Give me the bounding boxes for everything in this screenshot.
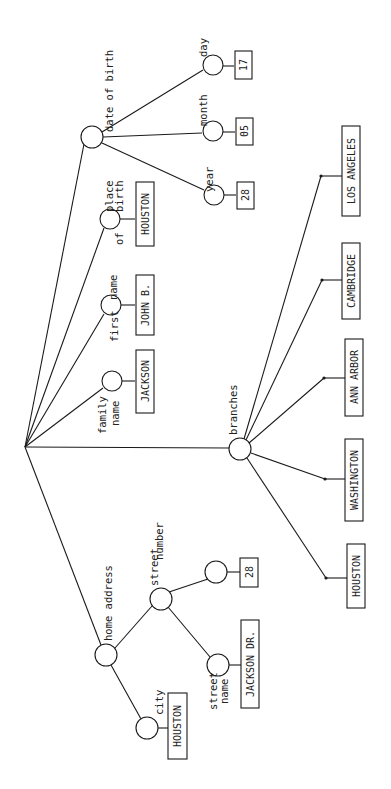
label-name: name bbox=[107, 275, 119, 300]
dot-cambridge bbox=[320, 278, 323, 281]
edge-root-branches bbox=[25, 447, 229, 448]
value-branch-cambridge: CAMBRIDGE bbox=[346, 254, 357, 308]
node-branches bbox=[229, 438, 251, 460]
value-year: 28 bbox=[240, 189, 251, 201]
edge-root-dob bbox=[25, 144, 84, 447]
value-labels: 17 05 28 HOUSTON JOHN B. JACKSON LOS ANG… bbox=[140, 59, 362, 747]
value-family-name: JACKSON bbox=[140, 360, 151, 402]
label-year: year bbox=[203, 167, 215, 192]
edge-home-street bbox=[115, 606, 152, 648]
label-branches: branches bbox=[227, 384, 239, 435]
label-street-name-2: name bbox=[218, 679, 230, 704]
label-first: first bbox=[108, 310, 120, 342]
node-family-name bbox=[102, 371, 122, 391]
label-number: number bbox=[153, 522, 165, 560]
value-first-name: JOHN B. bbox=[140, 284, 151, 326]
node-number bbox=[205, 561, 227, 583]
edge-branch-washington bbox=[251, 453, 325, 479]
label-of: of bbox=[113, 232, 125, 245]
node-home-address bbox=[95, 644, 117, 666]
value-month: 05 bbox=[239, 125, 250, 137]
edge-root-home bbox=[25, 447, 101, 645]
dot-houston bbox=[324, 576, 327, 579]
node-day bbox=[203, 55, 223, 75]
value-place-of-birth: HOUSTON bbox=[140, 193, 151, 235]
label-date-of-birth: date of birth bbox=[103, 50, 115, 132]
label-family: family bbox=[96, 396, 108, 434]
edge-root-place bbox=[25, 228, 104, 447]
label-day: day bbox=[197, 38, 209, 57]
label-birth: birth bbox=[113, 180, 125, 212]
label-family-name: name bbox=[109, 401, 121, 426]
node-date-of-birth bbox=[81, 126, 103, 148]
edge-street-name bbox=[168, 607, 210, 657]
edge-dob-month bbox=[103, 133, 202, 137]
value-branch-washington: WASHINGTON bbox=[349, 450, 360, 510]
value-day: 17 bbox=[238, 59, 249, 71]
value-number: 28 bbox=[244, 566, 255, 578]
edge-street-number bbox=[169, 579, 208, 592]
record-tree-diagram: date of birth day month year place birth… bbox=[0, 0, 391, 789]
label-city: city bbox=[153, 690, 165, 715]
edge-branch-houston bbox=[247, 458, 326, 578]
value-street-name: JACKSON DR. bbox=[245, 631, 256, 697]
label-home-address: home address bbox=[102, 565, 114, 641]
edge-dob-day bbox=[102, 70, 203, 132]
node-city bbox=[136, 717, 158, 739]
edge-root-family bbox=[25, 388, 103, 447]
dot-la bbox=[319, 174, 322, 177]
value-branch-la: LOS ANGELES bbox=[346, 138, 357, 204]
value-city: HOUSTON bbox=[172, 705, 183, 747]
edge-home-city bbox=[111, 665, 141, 719]
value-branch-annarbor: ANN ARBOR bbox=[349, 349, 360, 404]
dot-annarbor bbox=[322, 376, 325, 379]
label-month: month bbox=[197, 94, 209, 126]
value-branch-houston: HOUSTON bbox=[351, 555, 362, 597]
dot-washington bbox=[323, 477, 326, 480]
node-street bbox=[150, 588, 172, 610]
edge-root-first bbox=[25, 314, 104, 447]
